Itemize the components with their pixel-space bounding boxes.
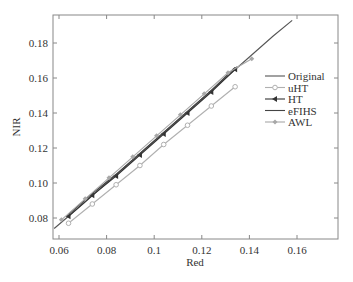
- legend-label: eFIHS: [288, 105, 317, 117]
- x-axis-label: Red: [186, 256, 204, 268]
- circle-marker-icon: [66, 221, 71, 226]
- legend-label: Original: [288, 70, 325, 82]
- x-axis-ticks: 0.060.080.10.120.140.16: [49, 15, 307, 256]
- y-axis-ticks: 0.080.100.120.140.160.18: [29, 37, 338, 224]
- legend-item-original: Original: [265, 70, 325, 82]
- y-tick-label: 0.12: [29, 142, 48, 154]
- circle-marker-icon: [233, 84, 238, 89]
- chart: 0.060.080.10.120.140.16 0.080.100.120.14…: [0, 0, 353, 282]
- circle-marker-icon: [90, 202, 95, 207]
- legend-label: AWL: [288, 116, 312, 128]
- y-axis-label: NIR: [10, 117, 22, 137]
- legend-item-efihs: eFIHS: [265, 105, 317, 117]
- x-tick-label: 0.06: [49, 244, 69, 256]
- series-efihs: [69, 68, 236, 215]
- y-tick-label: 0.08: [29, 212, 49, 224]
- circle-marker-icon: [273, 85, 278, 90]
- legend-item-ht: HT: [265, 93, 303, 105]
- series-layer: [54, 20, 292, 228]
- y-tick-label: 0.18: [29, 37, 49, 49]
- y-tick-label: 0.16: [29, 72, 49, 84]
- circle-marker-icon: [209, 104, 214, 109]
- x-tick-label: 0.1: [147, 244, 161, 256]
- circle-marker-icon: [161, 142, 166, 147]
- circle-marker-icon: [185, 123, 190, 128]
- triangle-marker-icon: [272, 96, 277, 102]
- circle-marker-icon: [138, 163, 143, 168]
- y-tick-label: 0.14: [29, 107, 49, 119]
- x-tick-label: 0.12: [192, 244, 211, 256]
- legend-item-awl: AWL: [265, 116, 312, 128]
- series-uht: [66, 84, 237, 225]
- series-line: [69, 68, 236, 215]
- legend-label: HT: [288, 93, 303, 105]
- circle-marker-icon: [114, 182, 119, 187]
- x-tick-label: 0.14: [240, 244, 260, 256]
- legend-item-uht: uHT: [265, 82, 308, 94]
- y-tick-label: 0.10: [29, 177, 49, 189]
- diamond-marker-icon: [273, 120, 278, 125]
- legend-label: uHT: [288, 82, 308, 94]
- x-tick-label: 0.08: [97, 244, 117, 256]
- legend: OriginaluHTHTeFIHSAWL: [265, 70, 325, 128]
- x-tick-label: 0.16: [287, 244, 307, 256]
